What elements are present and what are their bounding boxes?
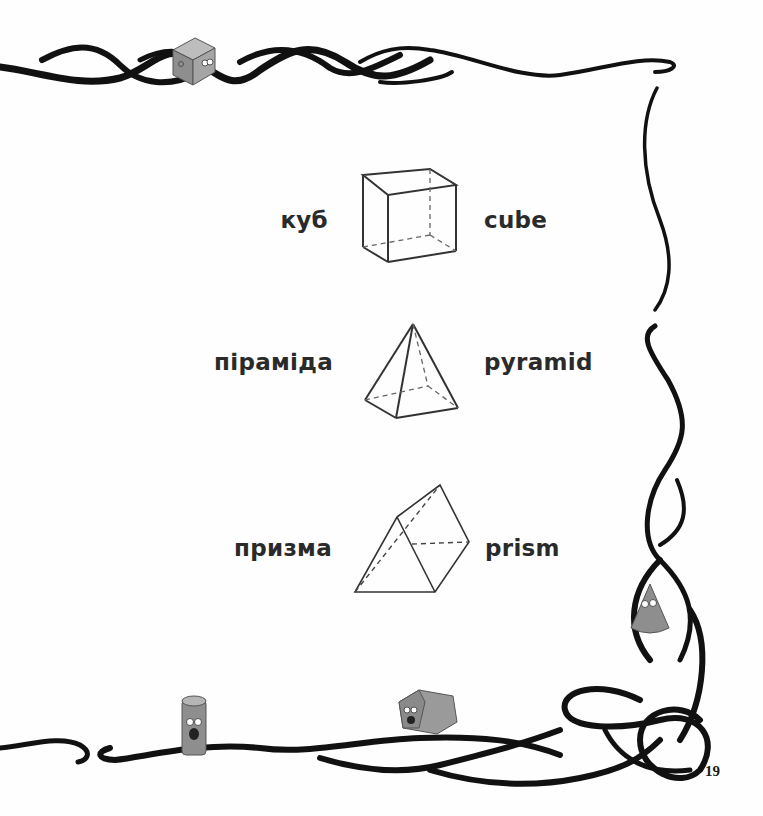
english-word-prism: prism — [485, 535, 560, 561]
prism-icon — [352, 482, 502, 594]
worksheet-page: куб cube піраміда p — [0, 0, 763, 816]
hexagonal-prism-mascot-icon — [385, 682, 460, 742]
english-word-cube: cube — [484, 207, 547, 233]
cube-icon — [358, 163, 460, 265]
page-number: 19 — [705, 763, 720, 780]
cone-mascot-icon — [625, 580, 675, 642]
ukrainian-word-prism: призма — [222, 535, 332, 561]
pyramid-icon — [360, 320, 464, 424]
ukrainian-word-pyramid: піраміда — [205, 349, 333, 375]
ukrainian-word-cube: куб — [240, 207, 328, 233]
english-word-pyramid: pyramid — [484, 349, 593, 375]
cube-mascot-icon — [165, 30, 220, 90]
cylinder-mascot-icon — [170, 692, 220, 762]
